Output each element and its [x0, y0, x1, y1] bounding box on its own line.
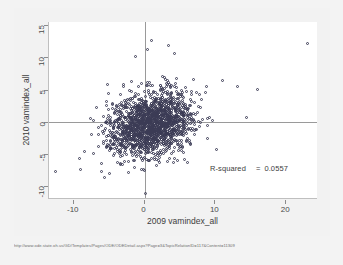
- scatter-point: [116, 113, 119, 116]
- scatter-point: [144, 192, 147, 195]
- scatter-point: [147, 89, 150, 92]
- scatter-point: [306, 42, 309, 45]
- scatter-point: [221, 79, 224, 82]
- scatter-point: [107, 108, 110, 111]
- scatter-point: [193, 101, 196, 104]
- r-squared-value: 0.0557: [264, 164, 288, 173]
- scatter-point: [90, 133, 93, 136]
- scatter-point: [172, 161, 175, 164]
- scatter-point: [95, 106, 98, 109]
- scatter-point: [180, 106, 183, 109]
- scatter-point: [144, 136, 147, 139]
- scatter-point: [146, 139, 149, 142]
- scatter-point: [140, 151, 143, 154]
- scatter-point: [122, 132, 125, 135]
- scatter-point: [138, 132, 141, 135]
- scatter-point: [176, 130, 179, 133]
- scatter-point: [123, 143, 126, 146]
- scatter-point: [102, 132, 105, 135]
- scatter-point: [160, 138, 163, 141]
- scatter-point: [165, 82, 168, 85]
- x-axis-tick: [73, 200, 74, 204]
- scatter-point: [146, 48, 149, 51]
- scatter-point: [130, 80, 133, 83]
- scatter-point: [102, 142, 105, 145]
- scatter-point: [112, 125, 115, 128]
- scatter-point: [119, 142, 122, 145]
- scatter-point: [137, 93, 140, 96]
- scatter-point: [173, 146, 176, 149]
- scatter-point: [97, 145, 100, 148]
- scatter-point: [199, 106, 202, 109]
- scatter-point: [158, 141, 161, 144]
- scatter-point: [186, 161, 189, 164]
- scatter-point: [119, 148, 122, 151]
- scatter-point: [102, 115, 105, 118]
- scatter-point: [128, 98, 131, 101]
- scatter-point: [151, 84, 154, 87]
- footer-url: http://www.ode.state.oh.us/GD/Templates/…: [14, 243, 334, 248]
- scatter-point: [142, 142, 145, 145]
- x-axis-title: 2009 vamindex_all: [48, 216, 317, 226]
- scatter-point: [83, 150, 86, 153]
- scatter-point: [206, 124, 209, 127]
- scatter-point: [166, 146, 169, 149]
- scatter-point: [131, 97, 134, 100]
- scatter-point: [189, 104, 192, 107]
- scatter-point: [164, 122, 167, 125]
- scatter-point: [105, 100, 108, 103]
- scatter-point: [130, 90, 133, 93]
- scatter-point: [166, 160, 169, 163]
- scatter-point: [97, 133, 100, 136]
- scatter-point: [143, 108, 146, 111]
- scatter-point: [194, 128, 197, 131]
- scatter-point: [122, 83, 125, 86]
- scatter-point: [198, 93, 201, 96]
- y-axis-title: 2010 vamindex_all: [21, 70, 31, 150]
- scatter-point: [183, 114, 186, 117]
- scatter-point: [169, 85, 172, 88]
- x-axis-tick-label: 0: [141, 205, 145, 214]
- scatter-point: [175, 86, 178, 89]
- scatter-point: [141, 112, 144, 115]
- r-squared-label: R-squared: [210, 164, 246, 173]
- scatter-point: [170, 111, 173, 114]
- scatter-point: [173, 157, 176, 160]
- scatter-point: [162, 152, 165, 155]
- scatter-point: [113, 135, 116, 138]
- scatter-point: [167, 132, 170, 135]
- scatter-point: [162, 148, 165, 151]
- scatter-point: [174, 108, 177, 111]
- scatter-point: [129, 148, 132, 151]
- scatter-point: [100, 170, 103, 173]
- scatter-point: [112, 122, 115, 125]
- scatter-point: [131, 118, 134, 121]
- scatter-point: [156, 112, 159, 115]
- scatter-point: [190, 129, 193, 132]
- scatter-point: [161, 92, 164, 95]
- scatter-point: [153, 122, 156, 125]
- scatter-point: [130, 109, 133, 112]
- scatter-point: [167, 115, 170, 118]
- scatter-point: [140, 168, 143, 171]
- scatter-point: [177, 149, 180, 152]
- scatter-point: [172, 133, 175, 136]
- scatter-point: [140, 82, 143, 85]
- scatter-point: [181, 145, 184, 148]
- scatter-point: [190, 93, 193, 96]
- scatter-point: [107, 114, 110, 117]
- scatter-point: [170, 142, 173, 145]
- scatter-point: [196, 111, 199, 114]
- scatter-point: [170, 97, 173, 100]
- scatter-point: [201, 118, 204, 121]
- scatter-point: [161, 88, 164, 91]
- scatter-point: [211, 119, 214, 122]
- scatter-point: [147, 148, 150, 151]
- scatter-point: [150, 39, 153, 42]
- scatter-point: [153, 128, 156, 131]
- x-axis-tick-label: 10: [210, 205, 219, 214]
- plot-area: R-squared=0.0557: [48, 22, 317, 199]
- scatter-point: [133, 159, 136, 162]
- scatter-point: [188, 141, 191, 144]
- scatter-point: [245, 116, 248, 119]
